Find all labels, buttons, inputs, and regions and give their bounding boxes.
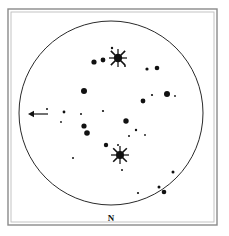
star-marker <box>124 65 126 67</box>
star-marker <box>104 143 108 147</box>
star-dot <box>63 111 66 114</box>
star-marker <box>121 169 123 171</box>
star-dot <box>151 94 153 96</box>
star-dot <box>137 192 139 194</box>
star-marker <box>137 192 139 194</box>
star-marker <box>46 108 48 110</box>
star-dot <box>72 157 74 159</box>
star-marker <box>145 67 148 70</box>
star-dot <box>172 171 175 174</box>
star-dot <box>60 121 62 123</box>
star-dot <box>116 151 124 159</box>
star-marker <box>80 113 82 115</box>
star-chart-canvas: N <box>0 0 229 236</box>
star-dot <box>162 190 167 195</box>
north-direction-label: N <box>108 213 115 223</box>
star-dot <box>102 110 104 112</box>
star-marker <box>155 66 160 71</box>
star-dot <box>81 123 86 128</box>
star-dot <box>174 95 176 97</box>
star-marker <box>144 134 146 136</box>
star-dot <box>144 134 146 136</box>
star-marker <box>111 146 129 164</box>
star-dot <box>164 91 170 97</box>
star-dot <box>124 65 126 67</box>
star-dot <box>155 66 160 71</box>
star-marker <box>164 91 170 97</box>
star-dot <box>158 186 161 189</box>
star-marker <box>111 47 113 49</box>
star-dot <box>101 58 106 63</box>
star-dot <box>111 47 113 49</box>
star-marker <box>84 130 90 136</box>
star-marker <box>91 59 96 64</box>
star-marker <box>117 144 119 146</box>
star-marker <box>172 171 175 174</box>
star-dot <box>84 130 90 136</box>
star-dot <box>135 129 137 131</box>
star-dot <box>46 108 48 110</box>
star-dot <box>123 118 128 123</box>
star-dot <box>114 54 122 62</box>
star-marker <box>63 111 66 114</box>
star-dot <box>80 113 82 115</box>
star-marker <box>158 186 161 189</box>
star-dot <box>141 99 146 104</box>
star-marker <box>174 95 176 97</box>
star-marker <box>60 121 62 123</box>
star-marker <box>101 58 106 63</box>
star-marker <box>123 118 128 123</box>
star-dot <box>128 135 130 137</box>
star-marker <box>141 99 146 104</box>
star-marker <box>102 110 104 112</box>
finder-chart-figure: N <box>0 0 229 236</box>
star-marker <box>72 157 74 159</box>
star-dot <box>121 169 123 171</box>
star-dot <box>104 143 108 147</box>
star-dot <box>117 144 119 146</box>
star-marker <box>109 49 127 67</box>
star-dot <box>81 88 87 94</box>
star-marker <box>128 135 130 137</box>
star-dot <box>145 67 148 70</box>
star-marker <box>162 190 167 195</box>
star-dot <box>91 59 96 64</box>
star-marker <box>81 88 87 94</box>
star-marker <box>81 123 86 128</box>
star-marker <box>151 94 153 96</box>
star-marker <box>135 129 137 131</box>
